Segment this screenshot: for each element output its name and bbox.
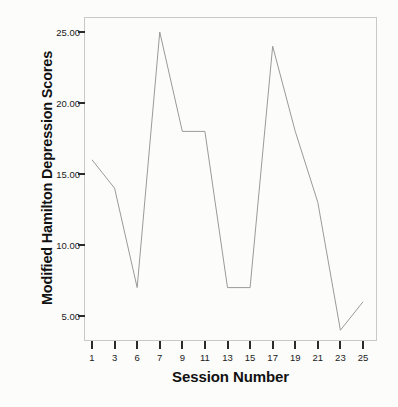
chart-page: Modified Hamilton Depression Scores 25.0… <box>0 0 398 407</box>
x-tick-label-25: 25 <box>351 352 375 363</box>
x-tick-label-9: 9 <box>170 352 194 363</box>
x-tick-mark-19 <box>294 341 296 349</box>
y-tick-label-20-00: 20.00 <box>36 98 80 109</box>
y-tick-mark-10-00 <box>78 244 85 246</box>
y-tick-label-5-00: 5.00 <box>36 311 80 322</box>
y-tick-label-15-00: 15.00 <box>36 169 80 180</box>
y-tick-label-10-00: 10.00 <box>36 240 80 251</box>
x-tick-mark-25 <box>362 341 364 349</box>
x-tick-label-23: 23 <box>328 352 352 363</box>
x-tick-mark-21 <box>317 341 319 349</box>
x-tick-label-6: 6 <box>125 352 149 363</box>
x-tick-mark-11 <box>204 341 206 349</box>
y-tick-mark-15-00 <box>78 173 85 175</box>
x-tick-mark-9 <box>181 341 183 349</box>
y-tick-mark-20-00 <box>78 102 85 104</box>
plot-frame <box>84 17 377 341</box>
x-tick-label-19: 19 <box>283 352 307 363</box>
x-tick-mark-17 <box>272 341 274 349</box>
y-tick-label-25-00: 25.00 <box>36 27 80 38</box>
x-tick-mark-7 <box>159 341 161 349</box>
x-tick-label-11: 11 <box>193 352 217 363</box>
x-tick-label-21: 21 <box>306 352 330 363</box>
x-tick-label-13: 13 <box>216 352 240 363</box>
x-tick-label-7: 7 <box>148 352 172 363</box>
x-tick-mark-3 <box>114 341 116 349</box>
y-tick-mark-25-00 <box>78 31 85 33</box>
x-axis-title: Session Number <box>84 368 377 385</box>
x-tick-label-15: 15 <box>238 352 262 363</box>
x-tick-mark-23 <box>339 341 341 349</box>
x-tick-label-3: 3 <box>103 352 127 363</box>
y-tick-mark-5-00 <box>78 315 85 317</box>
x-tick-mark-6 <box>136 341 138 349</box>
x-tick-mark-1 <box>91 341 93 349</box>
x-tick-label-17: 17 <box>261 352 285 363</box>
x-tick-mark-15 <box>249 341 251 349</box>
x-tick-label-1: 1 <box>80 352 104 363</box>
x-tick-mark-13 <box>227 341 229 349</box>
